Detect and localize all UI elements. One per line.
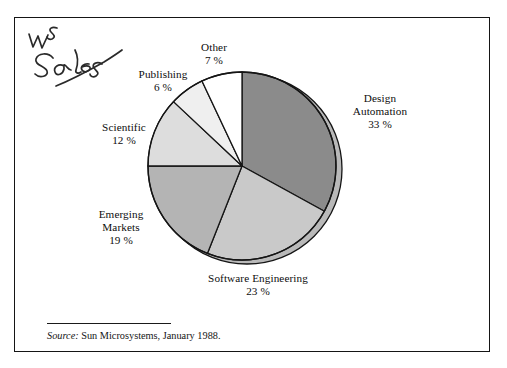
pie-label-design-automation-name-line1: Design (364, 92, 396, 104)
source-note-label: Source: (47, 330, 79, 341)
pie-label-publishing-value: 6 % (122, 81, 204, 94)
pie-label-publishing: Publishing 6 % (122, 68, 204, 94)
pie-label-design-automation-value: 33 % (337, 118, 423, 131)
pie-chart-svg (0, 0, 507, 368)
pie-label-design-automation-name-line2: Automation (337, 105, 423, 118)
pie-label-software-engineering-name: Software Engineering (208, 272, 308, 284)
pie-label-emerging-markets-value: 19 % (80, 234, 162, 247)
pie-label-other: Other 7 % (180, 41, 248, 67)
source-note-text: Sun Microsystems, January 1988. (81, 330, 220, 341)
source-rule (47, 323, 171, 324)
pie-label-scientific: Scientific 12 % (85, 121, 163, 147)
pie-chart: Other 7 % Publishing 6 % Scientific 12 %… (0, 0, 507, 368)
pie-label-software-engineering-value: 23 % (188, 285, 328, 298)
pie-label-other-value: 7 % (180, 54, 248, 67)
pie-label-software-engineering: Software Engineering 23 % (188, 272, 328, 298)
pie-label-scientific-value: 12 % (85, 134, 163, 147)
pie-label-emerging-markets-name-line2: Markets (80, 221, 162, 234)
pie-label-scientific-name: Scientific (102, 121, 146, 133)
pie-label-emerging-markets-name-line1: Emerging (99, 208, 144, 220)
pie-label-publishing-name: Publishing (139, 68, 188, 80)
pie-label-design-automation: Design Automation 33 % (337, 92, 423, 132)
pie-label-emerging-markets: Emerging Markets 19 % (80, 208, 162, 248)
source-note: Source: Sun Microsystems, January 1988. (47, 329, 221, 342)
pie-label-other-name: Other (201, 41, 227, 53)
